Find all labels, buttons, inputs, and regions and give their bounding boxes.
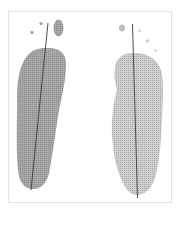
left-toe-print-2: [39, 22, 42, 25]
right-toe-print-2: [138, 30, 140, 32]
footprints-figure: [0, 0, 176, 232]
left-footprint: [17, 20, 66, 191]
left-sole-print: [17, 48, 66, 189]
right-sole-print: [112, 53, 163, 195]
right-toe-print-4: [155, 49, 157, 52]
right-footprint: [112, 24, 163, 198]
left-big-toe-print: [54, 20, 64, 37]
right-toe-print-3: [146, 40, 150, 43]
left-toe-print-3: [30, 31, 33, 35]
right-big-toe-print: [119, 25, 125, 32]
